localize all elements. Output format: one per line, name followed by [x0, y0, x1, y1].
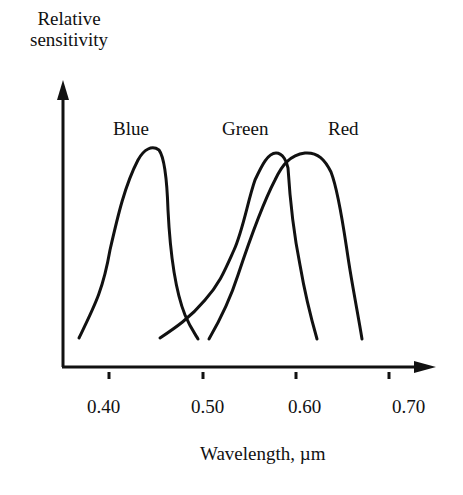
series-label-red: Red	[328, 118, 359, 140]
x-tick-label: 0.40	[87, 396, 120, 418]
y-axis-arrow-icon	[57, 80, 69, 100]
series-label-blue: Blue	[113, 118, 149, 140]
series-red-curve	[209, 153, 362, 339]
series-blue-curve	[79, 148, 198, 339]
series-label-green: Green	[222, 118, 268, 140]
x-tick-label: 0.70	[392, 396, 425, 418]
x-axis-label: Wavelength, µm	[200, 443, 326, 465]
x-axis-arrow-icon	[414, 361, 436, 373]
x-tick-label: 0.60	[288, 396, 321, 418]
chart-plot	[0, 0, 463, 495]
x-tick-label: 0.50	[191, 396, 224, 418]
x-ticks	[109, 372, 389, 379]
